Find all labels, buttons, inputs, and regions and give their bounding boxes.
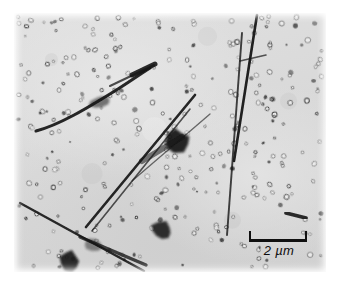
nanoparticle	[161, 112, 164, 115]
nanoparticle	[265, 106, 270, 111]
nanoparticle	[103, 161, 107, 165]
nanoparticle	[25, 152, 29, 156]
nanoparticle	[60, 250, 64, 253]
nanoparticle	[80, 91, 85, 97]
nanoparticle	[156, 21, 161, 26]
nanoparticle	[259, 16, 265, 21]
nanoparticle	[267, 181, 273, 187]
nanoparticle	[261, 141, 265, 145]
nanoparticle	[271, 119, 275, 123]
nanoparticle	[195, 227, 199, 231]
nanoparticle	[168, 48, 171, 51]
nanoparticle	[50, 131, 54, 135]
nanoparticle	[28, 18, 34, 23]
nanoparticle	[91, 32, 96, 37]
nanoparticle	[106, 74, 112, 80]
nanoparticle	[16, 93, 21, 97]
nanoparticle	[51, 185, 55, 190]
nanoparticle	[266, 69, 273, 76]
nanoparticle	[287, 100, 293, 106]
nanoparticle	[61, 82, 65, 86]
nanoparticle	[56, 159, 61, 163]
nanoparticle	[22, 77, 27, 82]
nanoparticle	[120, 215, 123, 218]
nanoparticle	[69, 141, 72, 143]
nanoparticle	[242, 244, 247, 248]
nanoparticle	[45, 110, 48, 113]
nanoparticle	[58, 181, 63, 186]
nanoparticle	[172, 153, 179, 160]
nanoparticle	[210, 77, 214, 81]
nanoparticle	[86, 48, 91, 52]
nanoparticle	[230, 114, 235, 119]
nanoparticle	[57, 265, 62, 269]
nanoparticle	[270, 190, 275, 195]
nanoparticle	[45, 62, 50, 67]
nanoparticle	[41, 81, 45, 84]
nanoparticle	[209, 167, 213, 171]
nanoparticle	[110, 153, 114, 157]
nanoparticle	[92, 47, 98, 53]
nanoparticle	[263, 95, 268, 100]
nanoparticle	[96, 75, 99, 77]
nanoparticle	[177, 167, 180, 170]
nanoparticle	[191, 43, 196, 48]
nanoparticle	[122, 148, 125, 151]
nanoparticle	[194, 175, 198, 179]
nanoparticle	[191, 74, 196, 80]
nanoparticle	[221, 163, 226, 169]
nanoparticle	[254, 90, 259, 95]
nanoparticle	[116, 91, 120, 95]
nanoparticle	[188, 155, 191, 158]
nanoparticle	[279, 21, 284, 26]
nanoparticle	[318, 218, 322, 222]
nanoparticle	[215, 182, 218, 185]
nanoparticle	[46, 249, 51, 254]
nanoparticle	[205, 191, 207, 193]
nanoparticle	[113, 37, 117, 41]
nanoparticle	[231, 215, 235, 219]
nanoparticle	[199, 150, 205, 156]
nanoparticle	[16, 21, 22, 27]
nanoparticle	[229, 19, 234, 24]
nanoparticle	[311, 179, 316, 184]
nanoparticle	[144, 173, 151, 180]
nanoparticle	[171, 27, 175, 31]
nanoparticle	[280, 161, 284, 165]
nanoparticle	[219, 237, 225, 243]
nanoparticle	[293, 23, 298, 28]
nanoparticle	[256, 100, 260, 105]
nanoparticle	[16, 15, 20, 20]
nanoparticle	[19, 63, 23, 67]
nanoparticle	[185, 57, 189, 62]
nanoparticle	[169, 118, 172, 121]
nanoparticle	[52, 118, 56, 122]
nanoparticle	[133, 17, 136, 20]
nanoparticle	[83, 187, 88, 192]
nanoparticle	[95, 16, 100, 21]
nanoparticle	[179, 175, 185, 181]
nanoparticle	[108, 224, 112, 228]
nanoparticle	[50, 150, 53, 153]
nanoparticle	[132, 253, 136, 257]
nanoparticle	[243, 126, 247, 131]
nanoparticle	[59, 18, 63, 21]
nanoparticle	[291, 86, 294, 89]
nanoparticle	[149, 86, 154, 91]
nanoparticle	[185, 84, 188, 87]
nanoparticle	[96, 266, 100, 270]
nanoparticle	[32, 264, 35, 267]
nanoparticle	[104, 54, 109, 59]
nanoparticle	[210, 154, 215, 159]
nanoparticle	[253, 176, 257, 180]
nanoparticle	[266, 14, 270, 19]
nanoparticle	[244, 142, 248, 146]
nanoparticle	[263, 196, 267, 200]
nanoparticle	[299, 43, 304, 48]
nanoparticle	[52, 60, 55, 63]
nanoparticle	[315, 112, 318, 115]
nanoparticle	[165, 175, 168, 179]
nanoparticle	[217, 230, 220, 233]
nanoparticle	[63, 55, 68, 60]
nanoparticle	[181, 263, 184, 266]
